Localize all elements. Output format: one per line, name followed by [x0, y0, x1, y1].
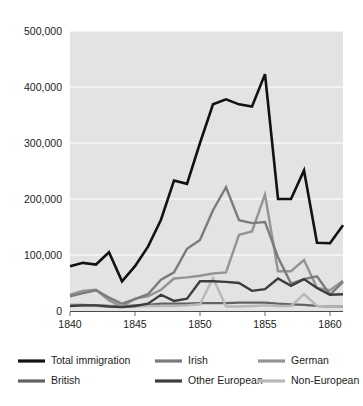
- y-tick-label: 200,000: [24, 193, 62, 205]
- x-tick-label: 1840: [58, 318, 82, 330]
- y-tick-label: 400,000: [24, 81, 62, 93]
- x-tick-label: 1860: [318, 318, 342, 330]
- legend-label: German: [291, 354, 329, 366]
- legend-label: Irish: [188, 354, 208, 366]
- legend-label: Total immigration: [51, 354, 131, 366]
- legend-label: British: [51, 374, 80, 386]
- x-tick-label: 1855: [253, 318, 277, 330]
- y-tick-label: 300,000: [24, 137, 62, 149]
- y-tick-label: 500,000: [24, 25, 62, 37]
- legend-label: Other European: [188, 374, 263, 386]
- plot-area-background: [70, 31, 343, 311]
- x-tick-label: 1850: [188, 318, 212, 330]
- x-tick-label: 1845: [123, 318, 147, 330]
- chart-canvas: 0100,000200,000300,000400,000500,000 184…: [0, 0, 363, 406]
- y-tick-label: 100,000: [24, 249, 62, 261]
- y-tick-label: 0: [56, 305, 62, 317]
- legend-label: Non-European: [291, 374, 359, 386]
- immigration-line-chart-figure: 0100,000200,000300,000400,000500,000 184…: [0, 0, 363, 406]
